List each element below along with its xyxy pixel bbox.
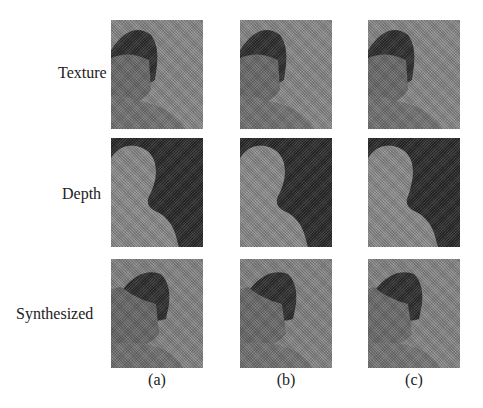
texture-image-b	[240, 20, 332, 129]
row-label-depth: Depth	[62, 185, 101, 203]
synthesized-image-c	[368, 259, 460, 368]
caption-c: (c)	[368, 371, 460, 389]
depth-image-b	[240, 138, 332, 247]
caption-b: (b)	[240, 371, 332, 389]
texture-image-c	[368, 20, 460, 129]
synthesized-image-a	[111, 259, 203, 368]
row-label-synthesized: Synthesized	[16, 305, 93, 323]
caption-a: (a)	[111, 371, 203, 389]
texture-image-a	[111, 20, 203, 129]
depth-image-c	[368, 138, 460, 247]
synthesized-image-b	[240, 259, 332, 368]
depth-image-a	[111, 138, 203, 247]
row-label-texture: Texture	[58, 64, 107, 82]
